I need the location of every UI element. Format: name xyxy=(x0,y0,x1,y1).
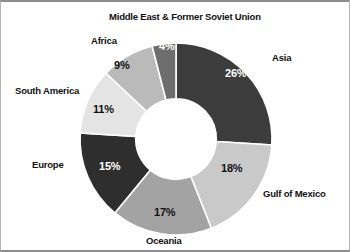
chart-frame: Middle East & Former Soviet Union Africa… xyxy=(0,0,350,252)
slice-label-oceania: Oceania xyxy=(146,235,182,246)
slice-value-middle-east: 4% xyxy=(159,40,175,52)
slice-label-south-america: South America xyxy=(15,85,79,96)
slice-value-europe: 15% xyxy=(99,160,120,172)
slice-label-asia: Asia xyxy=(272,52,291,63)
slice-value-africa: 9% xyxy=(114,59,130,71)
slice-label-europe: Europe xyxy=(32,159,64,170)
slice-value-gulf-of-mexico: 18% xyxy=(221,162,242,174)
slice-value-south-america: 11% xyxy=(93,103,114,115)
donut-hole xyxy=(136,99,217,180)
slice-label-middle-east: Middle East & Former Soviet Union xyxy=(109,11,261,22)
slice-label-africa: Africa xyxy=(91,35,117,46)
slice-value-asia: 26% xyxy=(225,67,246,79)
slice-label-gulf-of-mexico: Gulf of Mexico xyxy=(263,188,326,199)
slice-value-oceania: 17% xyxy=(154,206,175,218)
donut-chart xyxy=(1,2,350,252)
